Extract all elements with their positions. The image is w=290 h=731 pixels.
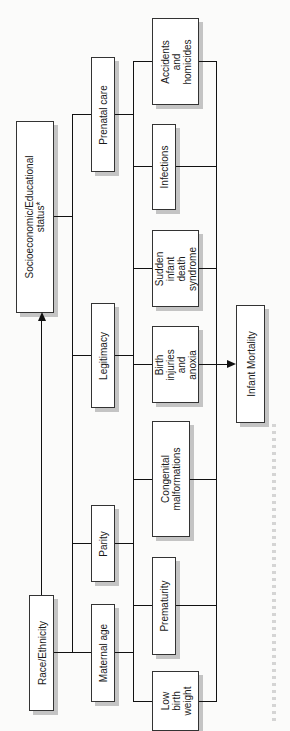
congenital-malformations-box: Congenital malformations	[152, 421, 190, 537]
prenatal-care-label: Prenatal care	[98, 85, 109, 144]
sids-box: Sudden infant death syndrome	[152, 230, 199, 307]
connector	[176, 166, 216, 167]
birth-injuries-box: Birth injuries and anoxia	[152, 326, 199, 403]
connector	[133, 61, 152, 62]
parity-label: Parity	[98, 531, 109, 557]
connector	[133, 268, 152, 269]
maternal-age-label: Maternal age	[98, 624, 109, 682]
spine-intermediate	[72, 114, 73, 652]
connector	[115, 652, 133, 653]
connector	[72, 114, 91, 115]
prenatal-care-box: Prenatal care	[91, 57, 115, 172]
connector	[133, 605, 152, 606]
connector	[133, 364, 152, 365]
socioeconomic-status-box: Socioeconomic/Educational status*	[16, 121, 54, 313]
connector	[133, 166, 152, 167]
maternal-age-box: Maternal age	[91, 604, 115, 702]
connector	[190, 479, 216, 480]
congenital-malformations-label: Congenital malformations	[160, 448, 182, 511]
connector	[199, 61, 216, 62]
accidents-homicides-box: Accidents and homicides	[152, 18, 199, 105]
sids-label: Sudden infant death syndrome	[154, 247, 198, 291]
connector	[72, 543, 91, 544]
birth-injuries-label: Birth injuries and anoxia	[154, 349, 198, 381]
low-birth-weight-label: Low birth weight	[159, 687, 192, 716]
connector	[133, 701, 152, 702]
connector	[115, 543, 133, 544]
connector	[199, 701, 216, 702]
connector	[72, 355, 91, 356]
race-to-socio-line	[41, 320, 42, 595]
infections-label: Infections	[159, 146, 170, 189]
connector	[176, 605, 216, 606]
infant-mortality-box: Infant Mortality	[236, 305, 265, 423]
arrowhead-up	[38, 312, 46, 321]
low-birth-weight-box: Low birth weight	[152, 671, 199, 731]
infections-box: Infections	[152, 124, 176, 210]
connector	[115, 355, 133, 356]
legitimacy-label: Legitimacy	[98, 332, 109, 380]
connector	[54, 216, 72, 217]
prematurity-box: Prematurity	[152, 557, 176, 655]
prematurity-label: Prematurity	[159, 580, 170, 631]
race-ethnicity-box: Race/Ethnicity	[29, 595, 54, 711]
connector	[115, 114, 133, 115]
legitimacy-box: Legitimacy	[91, 303, 115, 408]
parity-box: Parity	[91, 505, 115, 582]
race-ethnicity-label: Race/Ethnicity	[36, 621, 47, 685]
socioeconomic-status-label: Socioeconomic/Educational status*	[24, 156, 46, 279]
accidents-homicides-label: Accidents and homicides	[159, 39, 192, 84]
connector	[54, 652, 91, 653]
connector	[199, 268, 216, 269]
connector	[133, 479, 152, 480]
infant-mortality-label: Infant Mortality	[245, 331, 256, 397]
arrow-to-mortality-line	[199, 364, 227, 365]
footnote-text	[272, 424, 276, 724]
arrowhead-right	[227, 360, 236, 368]
spine-causes-right	[216, 61, 217, 702]
